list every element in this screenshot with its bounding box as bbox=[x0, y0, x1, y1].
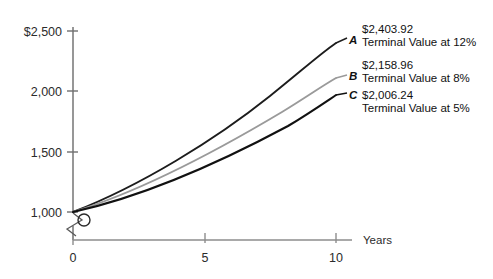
series-description-c: Terminal Value at 5% bbox=[362, 102, 470, 114]
series-terminal-value-c: $2,006.24 bbox=[362, 89, 414, 101]
y-tick-label-2000: 2,000 bbox=[31, 85, 62, 99]
x-tick-label-0: 0 bbox=[70, 251, 77, 265]
y-tick-label-1500: 1,500 bbox=[31, 146, 62, 160]
x-axis-label: Years bbox=[363, 234, 392, 246]
origin-marker-icon bbox=[78, 214, 90, 226]
series-key-c: C bbox=[349, 89, 358, 101]
series-description-a: Terminal Value at 12% bbox=[362, 36, 476, 48]
series-description-b: Terminal Value at 8% bbox=[362, 72, 470, 84]
growth-chart: $2,500 2,000 1,500 1,000 0 5 10 Years A … bbox=[0, 0, 493, 279]
leader-line-a bbox=[336, 38, 347, 43]
x-tick-label-5: 5 bbox=[202, 251, 209, 265]
leader-line-c bbox=[336, 93, 347, 95]
series-line-b bbox=[73, 78, 336, 212]
series-terminal-value-b: $2,158.96 bbox=[362, 59, 413, 71]
series-key-b: B bbox=[349, 70, 357, 82]
chart-container: $2,500 2,000 1,500 1,000 0 5 10 Years A … bbox=[0, 0, 493, 279]
series-key-a: A bbox=[348, 34, 357, 46]
series-line-a bbox=[73, 43, 336, 212]
x-tick-label-10: 10 bbox=[329, 251, 343, 265]
series-terminal-value-a: $2,403.92 bbox=[362, 23, 413, 35]
y-tick-label-2500: $2,500 bbox=[24, 25, 62, 39]
leader-line-b bbox=[336, 75, 347, 78]
y-tick-label-1000: 1,000 bbox=[31, 206, 62, 220]
